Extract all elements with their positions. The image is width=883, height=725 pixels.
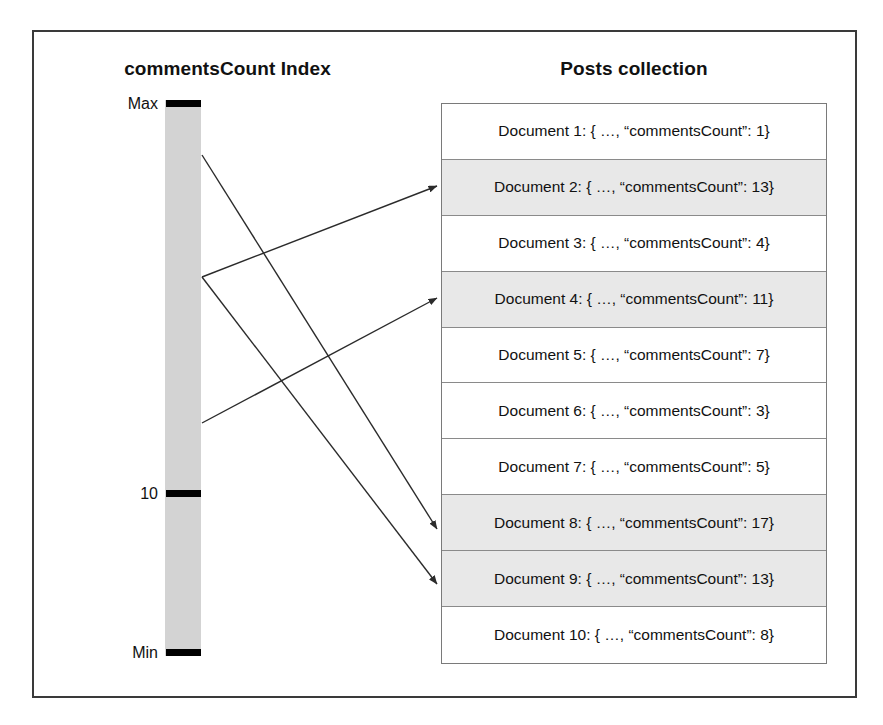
- document-label: Document 4: { …, “commentsCount”: 11}: [495, 290, 774, 308]
- index-tick-label-10: 10: [76, 485, 158, 503]
- posts-collection-table: Document 1: { …, “commentsCount”: 1} Doc…: [441, 103, 827, 664]
- document-label: Document 2: { …, “commentsCount”: 13}: [494, 178, 774, 196]
- table-row: Document 7: { …, “commentsCount”: 5}: [442, 439, 826, 495]
- collection-panel-title: Posts collection: [441, 58, 827, 80]
- table-row: Document 5: { …, “commentsCount”: 7}: [442, 328, 826, 384]
- table-row: Document 3: { …, “commentsCount”: 4}: [442, 216, 826, 272]
- document-label: Document 8: { …, “commentsCount”: 17}: [494, 514, 774, 532]
- index-panel-title: commentsCount Index: [80, 58, 375, 80]
- index-tick-label-min: Min: [76, 644, 158, 662]
- table-row: Document 8: { …, “commentsCount”: 17}: [442, 495, 826, 551]
- table-row: Document 1: { …, “commentsCount”: 1}: [442, 104, 826, 160]
- index-tick-min: [166, 649, 201, 656]
- index-tick-label-max: Max: [76, 95, 158, 113]
- table-row: Document 2: { …, “commentsCount”: 13}: [442, 160, 826, 216]
- table-row: Document 4: { …, “commentsCount”: 11}: [442, 272, 826, 328]
- table-row: Document 9: { …, “commentsCount”: 13}: [442, 551, 826, 607]
- table-row: Document 6: { …, “commentsCount”: 3}: [442, 383, 826, 439]
- document-label: Document 9: { …, “commentsCount”: 13}: [494, 570, 774, 588]
- document-label: Document 1: { …, “commentsCount”: 1}: [498, 122, 769, 140]
- table-row: Document 10: { …, “commentsCount”: 8}: [442, 607, 826, 663]
- document-label: Document 6: { …, “commentsCount”: 3}: [498, 402, 769, 420]
- document-label: Document 3: { …, “commentsCount”: 4}: [498, 234, 769, 252]
- document-label: Document 5: { …, “commentsCount”: 7}: [498, 346, 769, 364]
- index-tick-10: [166, 490, 201, 497]
- document-label: Document 7: { …, “commentsCount”: 5}: [498, 458, 769, 476]
- document-label: Document 10: { …, “commentsCount”: 8}: [494, 626, 774, 644]
- comments-count-index-bar: [165, 100, 201, 656]
- index-tick-max: [166, 100, 201, 107]
- diagram-canvas: commentsCount Index Max 10 Min Posts col…: [0, 0, 883, 725]
